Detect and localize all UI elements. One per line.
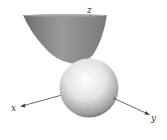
sphere-surface [60, 59, 119, 118]
x-axis [22, 95, 62, 106]
paraboloid-rim [23, 14, 107, 17]
paraboloid-surface [23, 15, 107, 64]
y-axis [113, 98, 148, 114]
z-axis-label: z [86, 5, 92, 15]
x-axis-label: x [11, 103, 16, 113]
y-axis-label: y [150, 113, 157, 123]
x-arrowhead-icon [20, 104, 26, 108]
y-arrowhead-icon [145, 111, 151, 115]
diagram-canvas: z x y [0, 0, 167, 140]
